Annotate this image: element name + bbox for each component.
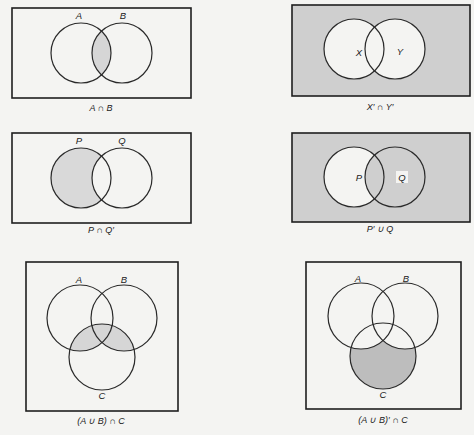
set-label-b: B	[403, 273, 410, 284]
venn-diagram-a-union-b-complement-intersect-c: A B C (A ∪ B)′ ∩ C	[0, 0, 474, 435]
set-label-c: C	[380, 389, 387, 400]
venn-diagrams-figure: A B A ∩ B X Y X′ ∩ Y′ P Q P ∩ Q′ P Q P′ …	[0, 0, 474, 435]
diagram-caption: (A ∪ B)′ ∩ C	[358, 415, 408, 425]
shaded-region	[0, 0, 474, 435]
set-label-a: A	[354, 273, 361, 284]
